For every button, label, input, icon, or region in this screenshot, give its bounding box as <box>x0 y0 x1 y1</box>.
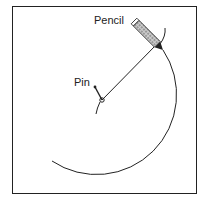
drawn-arc <box>52 50 177 175</box>
diagram-canvas <box>0 0 206 203</box>
pencil-label: Pencil <box>94 14 124 26</box>
pin-label: Pin <box>74 76 90 88</box>
pencil-icon <box>131 18 166 53</box>
string-line <box>102 45 156 100</box>
string-end <box>160 28 165 44</box>
